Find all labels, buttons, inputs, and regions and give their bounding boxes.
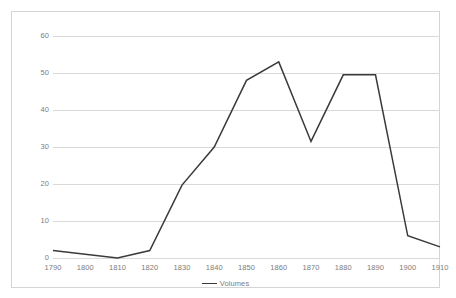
y-tick-label: 60 (23, 32, 49, 40)
y-tick-label: 10 (23, 217, 49, 225)
line-chart: 0102030405060 17901800181018201830184018… (0, 0, 456, 298)
chart-legend: Volumes (12, 280, 439, 288)
legend-line-icon (202, 283, 217, 284)
x-tick-label: 1890 (367, 264, 384, 272)
x-tick-label: 1850 (238, 264, 255, 272)
y-tick-label: 40 (23, 106, 49, 114)
x-tick-label: 1800 (77, 264, 94, 272)
x-tick-label: 1900 (399, 264, 416, 272)
x-tick-label: 1810 (109, 264, 126, 272)
chart-frame: 0102030405060 17901800181018201830184018… (11, 11, 440, 288)
y-tick-label: 50 (23, 69, 49, 77)
plot-area (53, 36, 440, 258)
legend-item[interactable]: Volumes (202, 280, 249, 288)
x-tick-label: 1820 (141, 264, 158, 272)
x-tick-label: 1910 (431, 264, 448, 272)
x-tick-label: 1840 (206, 264, 223, 272)
x-tick-label: 1860 (270, 264, 287, 272)
gridline-0 (53, 258, 440, 259)
x-tick-label: 1830 (173, 264, 190, 272)
x-tick-label: 1790 (44, 264, 61, 272)
series-volumes (53, 36, 440, 258)
y-tick-label: 20 (23, 180, 49, 188)
x-tick-label: 1870 (302, 264, 319, 272)
y-tick-label: 30 (23, 143, 49, 151)
x-axis: 1790180018101820183018401850186018701880… (53, 264, 440, 276)
y-axis: 0102030405060 (23, 36, 49, 258)
series-line (53, 62, 440, 258)
y-tick-label: 0 (23, 254, 49, 262)
x-tick-label: 1880 (335, 264, 352, 272)
legend-label: Volumes (220, 280, 249, 288)
